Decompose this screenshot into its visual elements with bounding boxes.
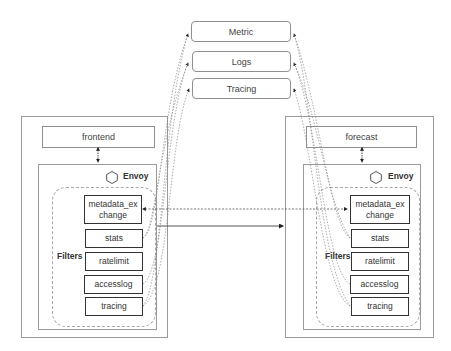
frontend-service-label: frontend (82, 132, 115, 142)
filter-label: stats (105, 233, 123, 244)
filter-label: accesslog (361, 279, 399, 290)
frontend-filter-stats: stats (85, 229, 143, 248)
frontend-filter-accesslog: accesslog (84, 275, 143, 294)
metric-sink: Metric (191, 21, 291, 42)
filter-label: ratelimit (99, 256, 129, 267)
forecast-envoy-label: Envoy (388, 171, 414, 181)
forecast-filters-label: Filters (325, 251, 351, 261)
filter-label: accesslog (95, 279, 133, 290)
forecast-filter-ratelimit: ratelimit (351, 252, 409, 271)
frontend-filter-tracing: tracing (85, 297, 143, 316)
forecast-filter-metadata-exchange: metadata_ex change (350, 195, 410, 224)
frontend-filters-label: Filters (57, 251, 83, 261)
forecast-filter-accesslog: accesslog (350, 275, 409, 294)
tracing-sink: Tracing (192, 78, 291, 99)
frontend-filter-metadata-exchange: metadata_ex change (84, 195, 142, 224)
forecast-filter-tracing: tracing (351, 297, 409, 316)
logs-sink: Logs (192, 51, 291, 72)
filter-label: ratelimit (365, 256, 395, 267)
metric-sink-label: Metric (229, 27, 254, 37)
tracing-sink-label: Tracing (227, 84, 257, 94)
logs-sink-label: Logs (232, 57, 252, 67)
filter-label: tracing (101, 301, 127, 312)
forecast-service: forecast (306, 126, 417, 148)
filter-label: stats (371, 233, 389, 244)
forecast-filter-stats: stats (351, 229, 409, 248)
filter-label: tracing (367, 301, 393, 312)
frontend-filter-ratelimit: ratelimit (85, 252, 143, 271)
hexagon-icon (370, 170, 382, 183)
filter-label: metadata_ex change (85, 199, 141, 221)
filter-label: metadata_ex change (351, 199, 409, 221)
hexagon-icon (106, 170, 118, 183)
frontend-service: frontend (42, 126, 155, 148)
forecast-service-label: forecast (345, 132, 377, 142)
frontend-envoy-label: Envoy (123, 171, 149, 181)
